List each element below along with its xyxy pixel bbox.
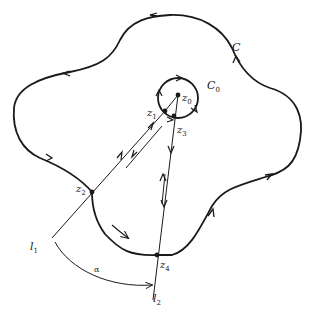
label-z4: z4 bbox=[159, 259, 170, 273]
label-alpha: α bbox=[94, 265, 100, 274]
point-z1 bbox=[163, 109, 168, 114]
line-l1 bbox=[52, 111, 165, 238]
label-C: C bbox=[232, 41, 241, 54]
label-z1: z1 bbox=[146, 107, 157, 121]
point-z3 bbox=[172, 114, 177, 119]
contour-C bbox=[14, 15, 301, 255]
label-l2: l2 bbox=[153, 292, 161, 307]
arrow-C-left-bottom bbox=[46, 154, 52, 161]
arrow-C-top bbox=[150, 13, 157, 16]
label-z3: z3 bbox=[176, 124, 187, 138]
segment-l1-return bbox=[126, 126, 162, 168]
label-l1: l1 bbox=[30, 240, 38, 255]
arrow-l2-down-2 bbox=[161, 200, 167, 207]
label-C0: C0 bbox=[207, 79, 220, 94]
point-z0 bbox=[176, 93, 181, 98]
contour-diagram: C C0 z0 z1 z3 z2 z4 l1 l2 α bbox=[0, 0, 319, 318]
arrow-l1-upper bbox=[117, 152, 122, 160]
angle-alpha-arc bbox=[55, 242, 152, 285]
point-z4 bbox=[155, 253, 160, 258]
arrow-direction-curve bbox=[112, 225, 128, 238]
label-z0: z0 bbox=[181, 92, 192, 106]
point-z2 bbox=[90, 190, 95, 195]
